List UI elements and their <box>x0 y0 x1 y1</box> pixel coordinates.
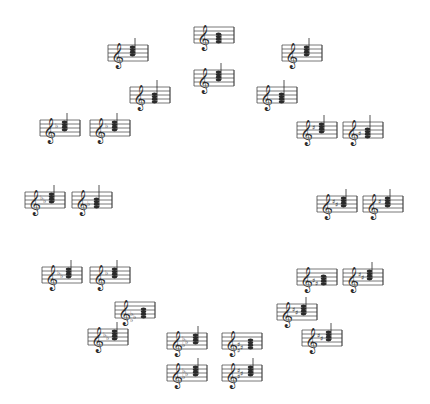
chord-notes <box>301 304 307 315</box>
chord-notes <box>304 45 310 56</box>
sharp-icon: ♯ <box>358 130 361 138</box>
chord-staff: 𝄞♯♯ <box>343 261 387 287</box>
chord-notes <box>112 329 118 340</box>
chord-staff: 𝄞♯ <box>343 114 387 140</box>
chord-notes <box>341 196 347 207</box>
chord-notes <box>248 365 254 376</box>
chord-notes <box>112 120 118 131</box>
flat-icon: ♭ <box>185 370 188 378</box>
treble-clef-icon: 𝄞 <box>133 85 146 111</box>
chord-notes <box>367 269 373 280</box>
chord-staff: 𝄞♯♯♯ <box>222 325 266 351</box>
treble-clef-icon: 𝄞 <box>197 25 210 51</box>
chord-notes <box>141 307 147 318</box>
chord-notes <box>319 122 325 133</box>
chord-notes <box>279 92 285 103</box>
chord-staff: 𝄞 <box>130 79 174 105</box>
chord-staff: 𝄞♭ <box>72 184 116 210</box>
chord-notes <box>385 196 391 207</box>
chord-staff: 𝄞♭♭ <box>25 184 69 210</box>
flat-icon: ♭ <box>87 200 90 208</box>
chord-circle-diagram: 𝄞𝄞𝄞𝄞𝄞𝄞𝄞♭𝄞♭𝄞♯𝄞♯𝄞♭♭𝄞♭𝄞♯♯𝄞♯𝄞♭♭𝄞♭𝄞♯♯𝄞♯♯𝄞♭♭♭𝄞… <box>0 0 430 404</box>
sharp-icon: ♯ <box>240 370 243 378</box>
sharp-icon: ♯ <box>237 347 240 355</box>
chord-notes <box>49 192 55 203</box>
treble-clef-icon: 𝄞 <box>260 85 273 111</box>
sharp-icon: ♯ <box>378 198 381 206</box>
chord-staff: 𝄞 <box>194 62 238 88</box>
chord-notes <box>326 330 332 341</box>
flat-icon: ♭ <box>185 338 188 346</box>
chord-staff: 𝄞♯♯ <box>317 188 361 214</box>
chord-staff: 𝄞♭ <box>90 259 134 285</box>
chord-notes <box>248 338 254 349</box>
chord-notes <box>365 127 371 138</box>
flat-icon: ♭ <box>182 341 185 349</box>
chord-staff: 𝄞 <box>257 79 301 105</box>
chord-notes <box>216 70 222 81</box>
sharp-icon: ♯ <box>361 274 364 282</box>
chord-staff: 𝄞♭♭ <box>88 321 132 347</box>
chord-notes <box>152 92 158 103</box>
chord-staff: 𝄞♭ <box>40 112 84 138</box>
chord-notes <box>193 333 199 344</box>
sharp-icon: ♯ <box>240 344 243 352</box>
chord-notes <box>62 120 68 131</box>
chord-notes <box>112 267 118 278</box>
chord-staff: 𝄞♭♭♭ <box>167 325 211 351</box>
sharp-icon: ♯ <box>335 201 338 209</box>
chord-notes <box>130 45 136 56</box>
sharp-icon: ♯ <box>320 335 323 343</box>
flat-icon: ♭ <box>60 272 63 280</box>
chord-staff: 𝄞♭ <box>90 112 134 138</box>
chord-staff: 𝄞♭♭♭ <box>115 294 159 320</box>
flat-icon: ♭ <box>55 122 58 130</box>
chord-staff: 𝄞 <box>282 37 326 63</box>
chord-notes <box>94 197 100 208</box>
flat-icon: ♭ <box>105 269 108 277</box>
flat-icon: ♭ <box>182 373 185 381</box>
chord-staff: 𝄞 <box>108 37 152 63</box>
chord-notes <box>216 32 222 43</box>
chord-staff: 𝄞♭♭ <box>42 259 86 285</box>
treble-clef-icon: 𝄞 <box>111 43 124 69</box>
chord-staff: 𝄞♯♯ <box>277 296 321 322</box>
chord-staff: 𝄞♯♯ <box>297 261 341 287</box>
sharp-icon: ♯ <box>295 309 298 317</box>
chord-staff: 𝄞♯ <box>297 114 341 140</box>
flat-icon: ♭ <box>106 334 109 342</box>
treble-clef-icon: 𝄞 <box>285 43 298 69</box>
chord-notes <box>66 267 72 278</box>
chord-staff: 𝄞♯ <box>363 188 407 214</box>
chord-staff: 𝄞♭♭♭ <box>167 357 211 383</box>
sharp-icon: ♯ <box>312 124 315 132</box>
chord-staff: 𝄞 <box>194 19 238 45</box>
chord-staff: 𝄞♯♯♯ <box>222 357 266 383</box>
flat-icon: ♭ <box>133 313 136 321</box>
chord-notes <box>193 365 199 376</box>
treble-clef-icon: 𝄞 <box>197 68 210 94</box>
chord-notes <box>321 274 327 285</box>
flat-icon: ♭ <box>43 197 46 205</box>
sharp-icon: ♯ <box>237 373 240 381</box>
sharp-icon: ♯ <box>315 280 318 288</box>
chord-staff: 𝄞♯♯ <box>302 322 346 348</box>
flat-icon: ♭ <box>105 122 108 130</box>
